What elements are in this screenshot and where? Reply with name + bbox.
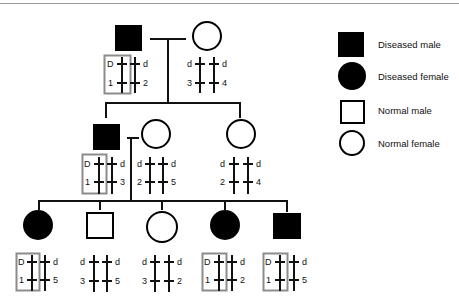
allele-label: d	[115, 257, 120, 267]
allele-label: 2	[137, 177, 142, 187]
diseased-female-icon	[338, 62, 366, 90]
allele-label: 1	[85, 177, 90, 187]
allele-label: 1	[205, 275, 210, 285]
allele-label: d	[171, 159, 176, 169]
normal-female-icon	[340, 131, 364, 155]
allele-label: 1	[108, 78, 113, 88]
individual-I-1: D d 1 2	[105, 25, 149, 94]
allele-label: d	[220, 159, 225, 169]
individual-III-3: d d 3 2	[142, 212, 182, 292]
allele-label: D	[204, 257, 211, 267]
legend-item-diseased-male: Diseased male	[338, 32, 441, 57]
normal-male-symbol	[87, 213, 113, 238]
individual-II-2: d d 2 5	[137, 120, 176, 194]
normal-female-symbol	[147, 212, 177, 242]
normal-female-symbol	[193, 22, 221, 50]
allele-label: D	[265, 257, 272, 267]
allele-label: d	[256, 159, 261, 169]
diseased-male-symbol	[273, 213, 301, 239]
chromosome-pair	[195, 57, 219, 93]
allele-label: 2	[143, 78, 148, 88]
allele-label: d	[137, 159, 142, 169]
allele-label: 2	[177, 276, 182, 286]
legend-item-diseased-female: Diseased female	[338, 62, 449, 90]
allele-label: 3	[80, 276, 85, 286]
allele-label: 3	[187, 78, 192, 88]
chromosome-pair	[229, 157, 253, 194]
legend: Diseased male Diseased female Normal mal…	[338, 32, 449, 155]
normal-female-symbol	[142, 120, 170, 148]
diseased-female-symbol	[210, 210, 240, 240]
allele-label: 4	[256, 177, 261, 187]
allele-label: 1	[266, 275, 271, 285]
legend-label: Diseased female	[378, 71, 449, 82]
allele-label: D	[84, 159, 91, 169]
allele-label: d	[120, 159, 125, 169]
normal-female-symbol	[227, 120, 255, 148]
individual-I-2: d d 3 4	[187, 22, 227, 93]
allele-label: D	[18, 257, 25, 267]
allele-label: d	[187, 59, 192, 69]
individual-III-2: d d 3 5	[80, 213, 120, 292]
allele-label: 3	[120, 177, 125, 187]
normal-male-icon	[341, 101, 364, 123]
allele-label: d	[302, 257, 307, 267]
allele-label: D	[107, 59, 114, 69]
allele-label: d	[240, 257, 245, 267]
allele-label: d	[177, 257, 182, 267]
individual-II-1: D d 1 3	[83, 124, 126, 194]
legend-item-normal-male: Normal male	[341, 101, 432, 123]
allele-label: 1	[19, 275, 24, 285]
allele-label: 4	[222, 78, 227, 88]
individual-II-3: d d 2 4	[220, 120, 261, 194]
legend-label: Normal female	[378, 138, 440, 149]
allele-label: 2	[220, 177, 225, 187]
legend-label: Diseased male	[378, 39, 441, 50]
allele-label: d	[143, 59, 148, 69]
allele-label: 5	[53, 275, 58, 285]
allele-label: d	[53, 257, 58, 267]
allele-label: 5	[302, 275, 307, 285]
allele-label: d	[80, 257, 85, 267]
pedigree-diagram: D d 1 2 d d 3 4 D d 1 3	[0, 0, 459, 305]
allele-label: 2	[240, 275, 245, 285]
chromosome-pair	[145, 157, 168, 194]
individual-III-1: D d 1 5	[17, 210, 59, 291]
legend-item-normal-female: Normal female	[340, 131, 440, 155]
individual-III-5: D d 1 5	[264, 213, 308, 291]
individual-III-4: D d 1 2	[203, 210, 246, 291]
allele-label: 5	[171, 177, 176, 187]
chromosome-pair	[150, 255, 174, 292]
allele-label: d	[142, 257, 147, 267]
diseased-male-symbol	[115, 25, 142, 51]
allele-label: 5	[115, 276, 120, 286]
chromosome-pair	[89, 255, 112, 292]
diseased-male-icon	[338, 32, 364, 57]
legend-label: Normal male	[378, 105, 432, 116]
allele-label: 3	[142, 276, 147, 286]
chromosome-pair	[117, 57, 140, 93]
allele-label: d	[222, 59, 227, 69]
diseased-female-symbol	[23, 210, 53, 240]
diseased-male-symbol	[93, 124, 120, 150]
